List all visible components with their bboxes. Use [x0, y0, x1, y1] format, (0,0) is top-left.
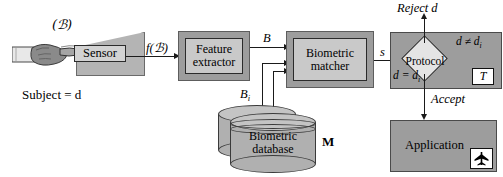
biometric-symbol-label: (ℬ): [52, 18, 72, 31]
edge-label-extractor-output: B: [263, 32, 271, 45]
sensor-label: Sensor: [83, 46, 117, 61]
edge-label-database-output-subscript: i: [248, 93, 250, 103]
feature-extractor-label-line2: extractor: [193, 56, 236, 69]
protocol-mismatch-condition: d ≠ di: [456, 36, 482, 48]
database-set-label: M: [322, 135, 334, 148]
diagram-canvas: (ℬ) Subject = d Sensor f(ℬ) Featur: [0, 0, 503, 177]
protocol-label: Protocol: [399, 55, 451, 67]
edge-extractor-to-matcher: [250, 47, 286, 48]
subject-caption: Subject = d: [22, 88, 81, 101]
database-cylinder-icon[interactable]: Biometric database: [230, 113, 316, 173]
protocol-mismatch-base: d ≠ d: [456, 35, 480, 47]
edge-sensor-to-extractor: [126, 56, 176, 57]
protocol-match-base: d = d: [393, 69, 418, 81]
edge-label-database-output: Bi: [240, 88, 250, 101]
protocol-match-condition: d = di: [393, 70, 420, 82]
feature-extractor-box[interactable]: Feature extractor: [178, 31, 250, 81]
edge-database-bend-a: [262, 63, 286, 64]
protocol-match-subscript: i: [418, 75, 420, 84]
biometric-matcher-box[interactable]: Biometric matcher: [286, 31, 374, 88]
edge-label-accept: Accept: [431, 93, 465, 106]
threshold-box[interactable]: T: [472, 68, 494, 85]
edge-label-sensor-output: f(ℬ): [146, 42, 168, 55]
database-label-line1: Biometric: [249, 129, 297, 143]
edge-protocol-accept: [424, 74, 425, 118]
edge-protocol-reject: [424, 17, 425, 43]
protocol-mismatch-subscript: i: [480, 41, 482, 50]
edge-database-riser-a: [262, 63, 263, 111]
threshold-label: T: [480, 69, 487, 84]
edge-label-matcher-output: s: [380, 46, 385, 59]
edge-label-database-output-base: B: [240, 87, 248, 101]
biometric-matcher-label-line2: matcher: [311, 60, 350, 73]
application-label: Application: [405, 139, 464, 152]
edge-label-reject: Reject d: [397, 2, 438, 15]
database-label-line2: database: [252, 142, 293, 156]
biometric-matcher-label-line1: Biometric: [306, 47, 354, 60]
sensor-box[interactable]: Sensor: [74, 45, 126, 62]
airplane-icon: [470, 148, 493, 169]
